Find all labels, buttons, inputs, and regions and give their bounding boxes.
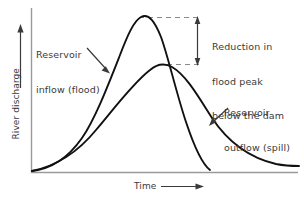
annotation-reservoir-outflow-line2: outflow (spill) — [224, 142, 290, 154]
y-axis-label: River discharge — [11, 66, 23, 142]
arrow-right-icon — [161, 183, 204, 189]
annotation-reservoir-outflow: Reservoir outflow (spill) — [224, 84, 290, 176]
annotation-flood-peak-reduction-line1: Reduction in — [212, 41, 284, 53]
annotation-reservoir-inflow: Reservoir inflow (flood) — [36, 26, 100, 118]
annotation-reservoir-inflow-line2: inflow (flood) — [36, 84, 100, 96]
peak-reduction-double-arrow-icon — [195, 16, 201, 66]
figure-reservoir-flood-hydrograph: Reservoir inflow (flood) Reduction in fl… — [0, 0, 304, 206]
annotation-reservoir-inflow-line1: Reservoir — [36, 49, 100, 61]
x-axis-label: Time — [134, 181, 156, 193]
annotation-reservoir-outflow-line1: Reservoir — [224, 107, 290, 119]
